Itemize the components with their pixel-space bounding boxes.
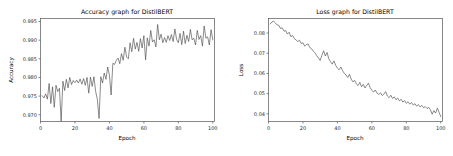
x-tick-label: 20: [300, 125, 306, 131]
loss-chart-svg: 0.040.050.060.070.08 020406080100 Loss g…: [227, 0, 453, 156]
accuracy-axes-spines: [41, 19, 215, 122]
loss-chart-title: Loss graph for DistilBERT: [316, 8, 394, 16]
x-tick-label: 100: [436, 125, 446, 131]
x-tick-label: 0: [39, 125, 42, 131]
y-tick-label: 0.08: [254, 30, 265, 36]
loss-y-axis-label: Loss: [238, 64, 244, 76]
x-tick-label: 20: [72, 125, 78, 131]
accuracy-x-axis-label: Epoch: [118, 135, 136, 142]
y-tick-label: 0.975: [23, 93, 37, 99]
matplotlib-figure: 0.9700.9750.9800.9850.9900.995 020406080…: [0, 0, 453, 156]
x-tick-label: 40: [106, 125, 112, 131]
x-tick-label: 60: [141, 125, 147, 131]
accuracy-chart-title: Accuracy graph for DistilBERT: [81, 8, 173, 16]
accuracy-y-ticks: 0.9700.9750.9800.9850.9900.995: [23, 18, 41, 117]
accuracy-x-ticks: 020406080100: [39, 122, 218, 131]
loss-y-ticks: 0.040.050.060.070.08: [254, 30, 269, 117]
x-tick-label: 80: [403, 125, 409, 131]
y-tick-label: 0.06: [254, 70, 265, 76]
y-tick-label: 0.995: [23, 18, 37, 24]
accuracy-chart: 0.9700.9750.9800.9850.9900.995 020406080…: [0, 0, 226, 156]
x-tick-label: 80: [175, 125, 181, 131]
x-tick-label: 60: [369, 125, 375, 131]
accuracy-plot-frame: [41, 19, 215, 122]
accuracy-chart-svg: 0.9700.9750.9800.9850.9900.995 020406080…: [0, 0, 226, 156]
loss-series-line: [270, 21, 441, 116]
loss-chart: 0.040.050.060.070.08 020406080100 Loss g…: [227, 0, 453, 156]
x-tick-label: 0: [267, 125, 270, 131]
accuracy-y-axis-label: Accuracy: [8, 57, 15, 83]
x-tick-label: 100: [208, 125, 218, 131]
y-tick-label: 0.990: [23, 37, 37, 43]
x-tick-label: 40: [334, 125, 340, 131]
y-tick-label: 0.985: [23, 56, 37, 62]
loss-x-axis-label: Epoch: [346, 135, 364, 142]
loss-x-ticks: 020406080100: [267, 122, 446, 131]
accuracy-series-line: [42, 24, 213, 121]
y-tick-label: 0.980: [23, 74, 37, 80]
y-tick-label: 0.970: [23, 112, 37, 118]
y-tick-label: 0.05: [254, 90, 265, 96]
y-tick-label: 0.07: [254, 50, 265, 56]
y-tick-label: 0.04: [254, 111, 265, 117]
